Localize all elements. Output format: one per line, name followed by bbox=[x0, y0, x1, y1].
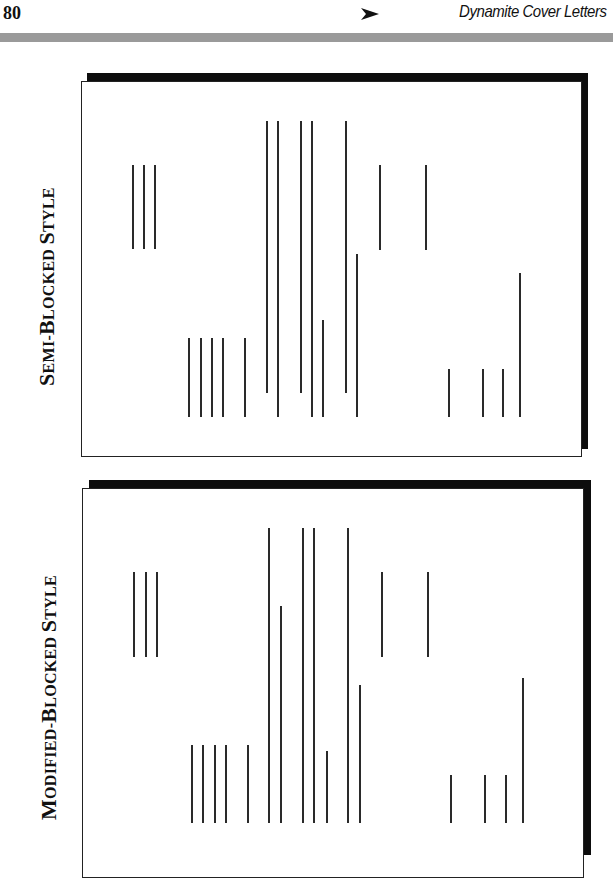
text-line-placeholder bbox=[313, 528, 315, 823]
text-line-placeholder bbox=[268, 528, 270, 823]
text-line-placeholder bbox=[311, 121, 313, 417]
text-line-placeholder bbox=[505, 775, 507, 823]
text-line-placeholder bbox=[188, 338, 190, 417]
text-line-placeholder bbox=[202, 745, 204, 823]
text-line-placeholder bbox=[482, 369, 484, 417]
text-line-placeholder bbox=[156, 572, 158, 657]
text-line-placeholder bbox=[132, 165, 134, 249]
page-number: 80 bbox=[3, 3, 21, 24]
panel-shadow-top bbox=[87, 73, 588, 81]
text-line-placeholder bbox=[280, 606, 282, 823]
text-line-placeholder bbox=[347, 528, 349, 823]
text-line-placeholder bbox=[425, 165, 427, 250]
text-line-placeholder bbox=[244, 338, 246, 417]
text-line-placeholder bbox=[502, 369, 504, 417]
text-line-placeholder bbox=[448, 369, 450, 417]
figure-label-modified-blocked: MODIFIED-BLOCKED STYLE bbox=[36, 575, 62, 820]
text-line-placeholder bbox=[356, 254, 358, 417]
text-line-placeholder bbox=[522, 678, 524, 823]
header-rule bbox=[0, 33, 613, 42]
text-line-placeholder bbox=[381, 572, 383, 657]
text-line-placeholder bbox=[225, 745, 227, 823]
text-line-placeholder bbox=[302, 528, 304, 823]
text-line-placeholder bbox=[277, 121, 279, 417]
text-line-placeholder bbox=[154, 165, 156, 249]
text-line-placeholder bbox=[145, 572, 147, 657]
text-line-placeholder bbox=[427, 572, 429, 657]
running-head-title: Dynamite Cover Letters bbox=[460, 2, 607, 22]
text-line-placeholder bbox=[300, 121, 302, 393]
text-line-placeholder bbox=[379, 165, 381, 250]
text-line-placeholder bbox=[222, 338, 224, 417]
panel-shadow-right bbox=[583, 480, 591, 855]
text-line-placeholder bbox=[143, 165, 145, 249]
text-line-placeholder bbox=[214, 745, 216, 823]
text-line-placeholder bbox=[359, 685, 361, 823]
text-line-placeholder bbox=[247, 745, 249, 823]
text-line-placeholder bbox=[484, 775, 486, 823]
letter-outline-panel bbox=[81, 81, 582, 457]
text-line-placeholder bbox=[266, 121, 268, 393]
text-line-placeholder bbox=[326, 751, 328, 823]
text-line-placeholder bbox=[322, 320, 324, 417]
text-line-placeholder bbox=[211, 338, 213, 417]
figure-label-semi-blocked: SEMI-BLOCKED STYLE bbox=[34, 187, 60, 386]
text-line-placeholder bbox=[345, 121, 347, 393]
text-line-placeholder bbox=[519, 273, 521, 417]
text-line-placeholder bbox=[191, 745, 193, 823]
right-arrowhead-icon bbox=[361, 8, 379, 20]
text-line-placeholder bbox=[133, 572, 135, 657]
letter-outline-panel bbox=[82, 488, 584, 878]
text-line-placeholder bbox=[200, 338, 202, 417]
text-line-placeholder bbox=[450, 775, 452, 823]
